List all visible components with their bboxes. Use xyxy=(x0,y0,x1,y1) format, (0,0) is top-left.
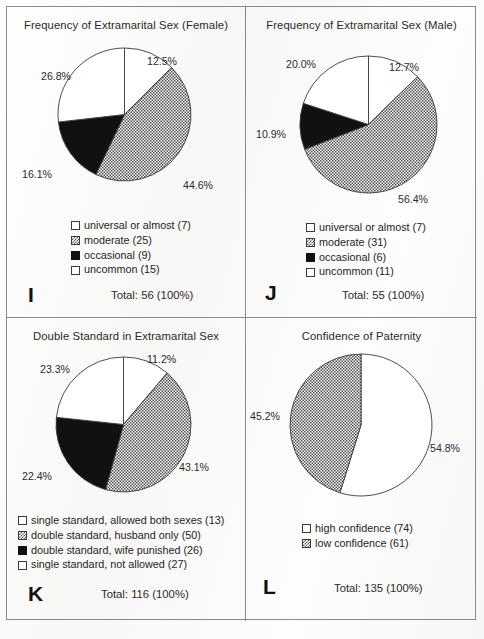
panel-k: Double Standard in Extramarital Sex 11.2… xyxy=(7,318,246,621)
panel-i-letter: I xyxy=(28,284,34,305)
panel-j-pct-3: 20.0% xyxy=(286,58,316,70)
panel-i-pie xyxy=(57,47,192,182)
legend-item-label: low confidence (61) xyxy=(315,537,409,551)
legend-item: occasional (9) xyxy=(71,249,191,263)
panel-j-legend: universal or almost (7)moderate (31)occa… xyxy=(306,221,426,279)
legend-item: high confidence (74) xyxy=(302,522,413,536)
legend-swatch-white-icon xyxy=(71,266,80,275)
panel-j-pct-1: 56.4% xyxy=(398,193,428,205)
legend-swatch-white-icon xyxy=(18,516,27,525)
legend-item: single standard, not allowed (27) xyxy=(18,558,224,572)
legend-item-label: double standard, husband only (50) xyxy=(31,529,201,543)
legend-swatch-white-icon xyxy=(71,221,80,230)
panel-k-title: Double Standard in Extramarital Sex xyxy=(7,330,245,342)
panel-k-pct-1: 43.1% xyxy=(179,461,209,473)
panel-l-pie-svg xyxy=(289,353,433,497)
panel-i-pct-2: 16.1% xyxy=(22,168,52,180)
panel-grid: Frequency of Extramarital Sex (Female) 1… xyxy=(6,6,476,620)
legend-item-label: moderate (31) xyxy=(319,236,387,250)
panel-i-legend: universal or almost (7)moderate (25)occa… xyxy=(71,219,191,277)
four-panel-pie-figure: Frequency of Extramarital Sex (Female) 1… xyxy=(0,0,484,639)
panel-j-pie-svg xyxy=(299,55,438,194)
legend-swatch-hatch-icon xyxy=(306,238,315,247)
legend-swatch-white-icon xyxy=(18,561,27,570)
panel-i-total: Total: 56 (100%) xyxy=(111,289,193,301)
panel-j-letter: J xyxy=(265,282,277,303)
panel-k-pie xyxy=(55,356,192,493)
panel-j-title: Frequency of Extramarital Sex (Male) xyxy=(246,19,477,31)
panel-i-pct-3: 26.8% xyxy=(41,70,71,82)
legend-item: low confidence (61) xyxy=(302,537,413,551)
panel-l-legend: high confidence (74)low confidence (61) xyxy=(302,522,413,551)
legend-item-label: universal or almost (7) xyxy=(319,221,426,235)
legend-swatch-white-icon xyxy=(306,268,315,277)
panel-i-title: Frequency of Extramarital Sex (Female) xyxy=(7,19,245,31)
legend-swatch-black-icon xyxy=(71,251,80,260)
legend-item-label: single standard, allowed both sexes (13) xyxy=(31,514,224,528)
legend-item: universal or almost (7) xyxy=(71,219,191,233)
legend-swatch-hatch-icon xyxy=(18,531,27,540)
panel-k-pct-3: 23.3% xyxy=(40,363,70,375)
panel-i-pct-0: 12.5% xyxy=(147,55,177,67)
legend-item-label: uncommon (11) xyxy=(319,265,394,279)
legend-swatch-black-icon xyxy=(18,546,27,555)
panel-l-pie xyxy=(289,353,433,497)
legend-item: single standard, allowed both sexes (13) xyxy=(18,514,224,528)
pie-slice xyxy=(58,48,125,122)
panel-j: Frequency of Extramarital Sex (Male) 12.… xyxy=(246,7,477,318)
legend-item: double standard, wife punished (26) xyxy=(18,544,224,558)
legend-item-label: double standard, wife punished (26) xyxy=(31,544,203,558)
legend-item: universal or almost (7) xyxy=(306,221,426,235)
legend-item-label: occasional (9) xyxy=(84,249,151,263)
legend-item: uncommon (11) xyxy=(306,265,426,279)
panel-j-total: Total: 55 (100%) xyxy=(342,289,424,301)
legend-item-label: occasional (6) xyxy=(319,251,386,265)
legend-swatch-black-icon xyxy=(306,253,315,262)
legend-item: double standard, husband only (50) xyxy=(18,529,224,543)
legend-item-label: universal or almost (7) xyxy=(84,219,191,233)
panel-j-pie xyxy=(299,55,438,194)
legend-item-label: single standard, not allowed (27) xyxy=(31,558,187,572)
legend-swatch-white-icon xyxy=(306,223,315,232)
legend-item: moderate (25) xyxy=(71,234,191,248)
legend-item-label: moderate (25) xyxy=(84,234,152,248)
panel-l-total: Total: 135 (100%) xyxy=(334,582,423,594)
legend-swatch-hatch-icon xyxy=(71,236,80,245)
panel-k-pie-svg xyxy=(55,356,192,493)
legend-item: moderate (31) xyxy=(306,236,426,250)
legend-item: uncommon (15) xyxy=(71,263,191,277)
panel-j-pct-0: 12.7% xyxy=(389,61,419,73)
panel-k-pct-0: 11.2% xyxy=(147,353,176,365)
panel-i-pie-svg xyxy=(57,47,192,182)
legend-item: occasional (6) xyxy=(306,251,426,265)
panel-i-pct-1: 44.6% xyxy=(183,179,213,191)
legend-item-label: uncommon (15) xyxy=(84,263,160,277)
legend-item-label: high confidence (74) xyxy=(315,522,413,536)
panel-k-total: Total: 116 (100%) xyxy=(101,588,189,600)
panel-k-letter: K xyxy=(28,583,43,604)
panel-l: Confidence of Paternity 54.8% 45.2% high… xyxy=(246,318,477,621)
panel-l-title: Confidence of Paternity xyxy=(246,330,477,342)
panel-l-letter: L xyxy=(263,576,276,597)
panel-l-pct-0: 54.8% xyxy=(430,442,460,454)
panel-k-legend: single standard, allowed both sexes (13)… xyxy=(18,514,224,572)
panel-i: Frequency of Extramarital Sex (Female) 1… xyxy=(7,7,246,318)
panel-k-pct-2: 22.4% xyxy=(22,470,52,482)
legend-swatch-hatch-icon xyxy=(302,539,311,548)
panel-j-pct-2: 10.9% xyxy=(256,128,286,140)
panel-l-pct-1: 45.2% xyxy=(250,410,280,422)
legend-swatch-white-icon xyxy=(302,524,311,533)
